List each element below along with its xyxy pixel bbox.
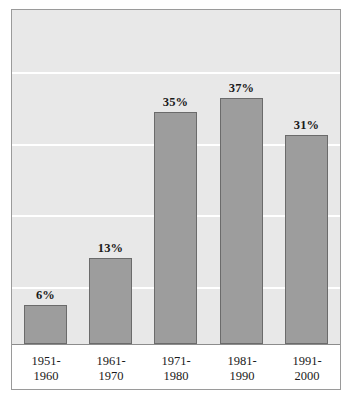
bar-value-label-4: 37%: [220, 81, 263, 96]
gridline-1: [12, 72, 340, 74]
x-axis-label-3-line1: 1971-: [161, 354, 190, 368]
bar-value-label-2: 13%: [89, 241, 132, 256]
x-axis-label-2-line1: 1961-: [96, 354, 125, 368]
x-axis-label-3-line2: 1980: [146, 369, 206, 384]
x-axis-label-2-line2: 1970: [81, 369, 141, 384]
x-axis-label-1: 1951- 1960: [16, 354, 76, 384]
x-axis-label-4: 1981- 1990: [212, 354, 272, 384]
x-axis-label-5: 1991- 2000: [277, 354, 337, 384]
bar-1971-1980[interactable]: [154, 112, 197, 344]
x-axis-line: [12, 344, 340, 345]
x-axis-label-2: 1961- 1970: [81, 354, 141, 384]
x-axis-label-1-line1: 1951-: [31, 354, 60, 368]
x-axis-label-5-line1: 1991-: [292, 354, 321, 368]
x-axis-label-3: 1971- 1980: [146, 354, 206, 384]
bar-value-label-1: 6%: [24, 288, 67, 303]
bar-1951-1960[interactable]: [24, 305, 67, 344]
bar-1991-2000[interactable]: [285, 135, 328, 344]
x-axis-label-5-line2: 2000: [277, 369, 337, 384]
x-axis-label-4-line2: 1990: [212, 369, 272, 384]
bar-chart-figure: 6% 13% 35% 37% 31% 1951- 1960 1961- 1970…: [0, 0, 355, 403]
x-axis-label-4-line1: 1981-: [227, 354, 256, 368]
bar-value-label-3: 35%: [154, 95, 197, 110]
bar-1981-1990[interactable]: [220, 98, 263, 344]
bar-1961-1970[interactable]: [89, 258, 132, 344]
x-axis-label-1-line2: 1960: [16, 369, 76, 384]
bar-value-label-5: 31%: [285, 118, 328, 133]
